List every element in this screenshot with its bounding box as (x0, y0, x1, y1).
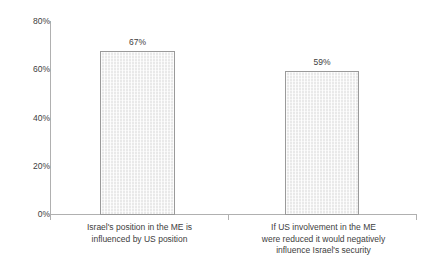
y-tick-20: 20% (0, 162, 50, 171)
bar-value-label-1: 67% (100, 37, 175, 47)
x-category-label-2-line-2: were reduced it would negatively (229, 234, 418, 246)
y-tick-mark-60 (44, 69, 50, 70)
x-tick-mark-right (416, 215, 417, 220)
y-axis-line (50, 21, 51, 215)
x-category-label-2-line-3: influence Israel's security (229, 245, 418, 257)
y-tick-mark-80 (44, 21, 50, 22)
y-tick-mark-40 (44, 118, 50, 119)
x-category-label-1-line-2: influenced by US position (52, 234, 227, 246)
x-category-label-2: If US involvement in the ME were reduced… (229, 222, 418, 257)
y-tick-40: 40% (0, 114, 50, 123)
bar-series-2 (285, 71, 359, 215)
x-tick-mark-left (50, 215, 51, 220)
bar-value-label-2: 59% (285, 57, 359, 67)
y-tick-mark-20 (44, 166, 50, 167)
bar-series-1 (100, 51, 175, 215)
y-tick-0: 0% (0, 210, 50, 219)
bar-chart: 80% 60% 40% 20% 0% 67% 59% Israel's posi… (0, 0, 429, 276)
x-tick-mark-middle (228, 215, 229, 220)
y-tick-60: 60% (0, 65, 50, 74)
x-category-label-1: Israel's position in the ME is influence… (52, 222, 227, 245)
x-category-label-1-line-1: Israel's position in the ME is (52, 222, 227, 234)
x-category-label-2-line-1: If US involvement in the ME (229, 222, 418, 234)
y-tick-80: 80% (0, 17, 50, 26)
